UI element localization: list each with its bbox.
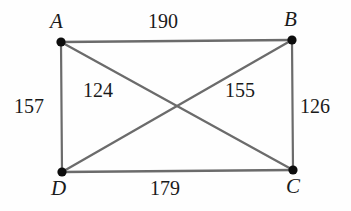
edge-weight-AB: 190 — [148, 11, 178, 31]
edge-weight-DC: 179 — [150, 178, 180, 198]
vertex-dot-A — [56, 37, 65, 46]
diagram-canvas: A B C D 190 126 179 157 124 155 — [0, 0, 351, 211]
edge-A-D — [61, 42, 62, 172]
edge-B-C — [292, 40, 293, 170]
vertex-label-B: B — [284, 9, 297, 30]
vertex-dot-B — [287, 35, 296, 44]
edge-A-B — [61, 40, 292, 42]
edge-weight-AD: 157 — [14, 96, 44, 116]
vertex-label-D: D — [51, 178, 66, 199]
vertex-label-C: C — [286, 176, 300, 197]
edge-weight-DB: 155 — [225, 80, 255, 100]
edge-D-C — [62, 170, 293, 172]
edge-D-B — [62, 40, 292, 172]
edge-weight-BC: 126 — [300, 96, 330, 116]
vertex-label-A: A — [50, 11, 63, 32]
edge-group — [61, 40, 293, 172]
edge-weight-AC: 124 — [83, 80, 113, 100]
